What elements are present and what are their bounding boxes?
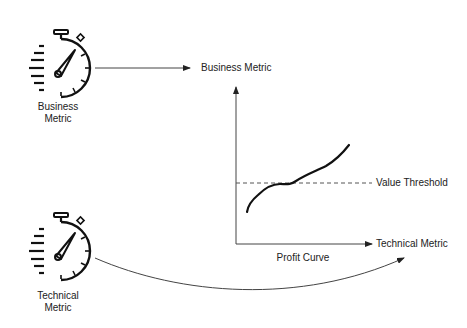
y-axis-label: Business Metric [201,62,272,74]
business-stopwatch-icon [29,30,90,97]
technical-metric-label: Technical Metric [37,290,79,314]
technical-arrow [95,258,404,290]
profit-curve-label: Profit Curve [277,252,330,264]
technical-label-line2: Metric [37,302,79,314]
technical-stopwatch-icon [29,213,90,280]
business-metric-label: Business Metric [38,101,79,125]
x-axis-label: Technical Metric [376,238,448,250]
profit-curve [247,145,349,212]
business-label-line1: Business [38,101,79,113]
business-label-line2: Metric [38,113,79,125]
technical-label-line1: Technical [37,290,79,302]
threshold-label: Value Threshold [376,177,448,189]
diagram-canvas [0,0,467,328]
